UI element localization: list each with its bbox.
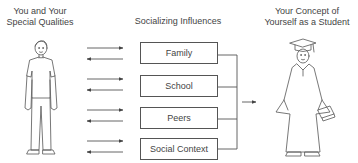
- arrow-pair-social-context: [87, 141, 123, 152]
- influence-box-peers: Peers: [140, 107, 218, 129]
- influence-label: Social Context: [150, 144, 208, 154]
- influence-box-family: Family: [140, 42, 218, 64]
- graduate-in-cap-and-gown-icon: [276, 39, 335, 156]
- influence-box-social-context: Social Context: [140, 138, 218, 160]
- arrow-pair-family: [87, 48, 123, 59]
- influence-label: Family: [166, 48, 193, 58]
- standing-person-icon: [25, 41, 57, 154]
- arrow-pair-peers: [87, 110, 123, 121]
- influence-label: School: [165, 81, 193, 91]
- influence-box-school: School: [140, 75, 218, 97]
- influence-label: Peers: [167, 113, 191, 123]
- bracket-connector: [218, 55, 237, 149]
- arrow-pair-school: [87, 79, 123, 90]
